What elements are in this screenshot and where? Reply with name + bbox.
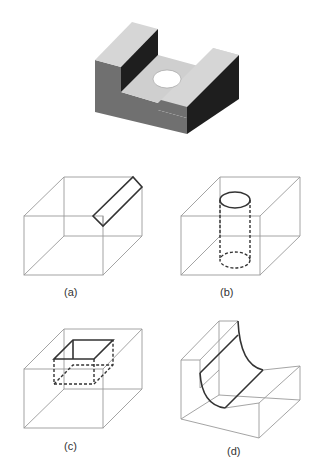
panel-b: (b) bbox=[181, 177, 300, 298]
panel-a: (a) bbox=[24, 177, 142, 298]
shaded-block bbox=[95, 22, 239, 134]
cylinder-top bbox=[220, 192, 250, 208]
pocket-hidden-edges bbox=[54, 340, 113, 384]
cylinder-bottom-hidden bbox=[220, 252, 250, 268]
figure-canvas: (a) (b) (c) bbox=[0, 0, 323, 472]
label-d: (d) bbox=[227, 445, 240, 457]
fillet-front bbox=[200, 373, 225, 408]
label-c: (c) bbox=[64, 440, 77, 452]
label-a: (a) bbox=[64, 286, 77, 298]
panel-c: (c) bbox=[24, 329, 142, 452]
panel-d: (d) bbox=[181, 321, 300, 457]
through-hole bbox=[153, 70, 181, 88]
fillet-back bbox=[238, 321, 263, 370]
label-b: (b) bbox=[220, 286, 233, 298]
diagonal-slot bbox=[93, 177, 142, 226]
pocket-top bbox=[54, 340, 113, 359]
